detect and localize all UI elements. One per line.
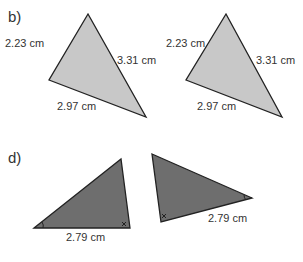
triangle-b2-bottom-side-label: 2.97 cm: [197, 100, 236, 112]
triangle-b1: 2.23 cm 3.31 cm 2.97 cm: [5, 14, 156, 117]
triangle-d2-bottom-side-label: 2.79 cm: [208, 212, 247, 224]
triangle-d1-bottom-side-label: 2.79 cm: [66, 231, 105, 243]
triangle-d1-shape: [34, 159, 130, 228]
triangle-b1-left-side-label: 2.23 cm: [5, 37, 44, 49]
triangle-b2-left-side-label: 2.23 cm: [166, 37, 205, 49]
part-label-d: d): [8, 149, 21, 166]
triangle-b2-right-side-label: 3.31 cm: [256, 54, 295, 66]
part-label-b: b): [8, 8, 21, 25]
triangle-b2: 2.23 cm 3.31 cm 2.97 cm: [166, 14, 295, 117]
triangle-d2: 2.79 cm: [152, 154, 252, 224]
triangles-diagram: b) 2.23 cm 3.31 cm 2.97 cm 2.23 cm 3.31 …: [0, 0, 303, 262]
triangle-b1-right-side-label: 3.31 cm: [117, 54, 156, 66]
triangle-d1: 2.79 cm: [34, 159, 130, 243]
triangle-b1-bottom-side-label: 2.97 cm: [57, 100, 96, 112]
